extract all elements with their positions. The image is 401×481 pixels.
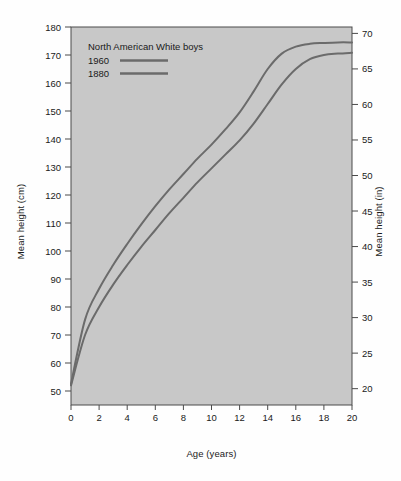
y-tick-label-left: 60 [50,358,61,369]
y-tick-label-right: 45 [362,206,373,217]
y-tick-label-left: 90 [50,274,61,285]
y-axis-right-title: Mean height (in) [373,162,384,282]
y-tick-label-left: 50 [50,386,61,397]
x-tick-label: 14 [262,412,273,423]
x-tick-label: 6 [153,412,158,423]
x-tick-label: 10 [206,412,217,423]
x-tick-label: 4 [125,412,130,423]
growth-chart: 02468101214161820 5060708090100110120130… [0,0,401,481]
y-axis-right-tick-labels: 2025303540455055606570 [362,28,373,394]
y-tick-label-left: 120 [45,190,61,201]
y-axis-left-tick-labels: 5060708090100110120130140150160170180 [45,22,61,397]
x-tick-label: 8 [181,412,186,423]
plot-area-background [71,27,352,405]
x-tick-label: 16 [291,412,302,423]
y-tick-label-right: 50 [362,170,373,181]
y-tick-label-left: 170 [45,50,61,61]
x-tick-label: 2 [96,412,101,423]
y-tick-label-left: 80 [50,302,61,313]
y-tick-label-right: 40 [362,241,373,252]
y-tick-label-right: 70 [362,28,373,39]
y-tick-label-right: 25 [362,348,373,359]
x-tick-label: 0 [68,412,73,423]
chart-figure: 02468101214161820 5060708090100110120130… [0,0,401,481]
y-axis-left-title: Mean height (cm) [15,162,26,282]
y-tick-label-right: 20 [362,383,373,394]
x-tick-label: 18 [319,412,330,423]
y-tick-label-left: 70 [50,330,61,341]
y-axis-right-ticks [352,33,358,388]
y-tick-label-left: 180 [45,22,61,33]
x-axis-title: Age (years) [71,448,352,459]
y-tick-label-left: 110 [46,218,61,229]
x-tick-label: 20 [347,412,358,423]
y-tick-label-left: 150 [45,106,61,117]
y-axis-left-ticks [65,27,71,391]
y-tick-label-right: 60 [362,99,373,110]
x-axis-ticks [71,405,352,410]
y-tick-label-right: 65 [362,63,373,74]
y-tick-label-left: 140 [45,134,61,145]
y-tick-label-right: 55 [362,134,373,145]
x-axis-tick-labels: 02468101214161820 [68,412,357,423]
y-tick-label-left: 130 [45,162,61,173]
legend-label-1880: 1880 [88,68,109,79]
legend-title: North American White boys [88,41,203,52]
y-tick-label-right: 30 [362,312,373,323]
y-tick-label-right: 35 [362,277,373,288]
y-tick-label-left: 160 [45,78,61,89]
y-tick-label-left: 100 [45,246,61,257]
legend-label-1960: 1960 [88,55,109,66]
x-tick-label: 12 [234,412,245,423]
